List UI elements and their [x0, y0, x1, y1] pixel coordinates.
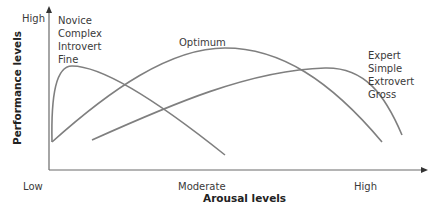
novice-label-line: Complex: [58, 27, 102, 40]
y-axis-title: Performance levels: [11, 35, 23, 145]
curve-novice: [52, 66, 225, 155]
x-axis-title: Arousal levels: [203, 192, 286, 204]
x-axis-arrow-icon: [421, 167, 428, 173]
novice-label-line: Introvert: [58, 40, 102, 53]
novice-label-line: Novice: [58, 14, 102, 27]
expert-label: Expert Simple Extrovert Gross: [368, 49, 414, 101]
x-tick-high: High: [354, 180, 377, 193]
curve-expert: [92, 68, 402, 140]
y-axis-arrow-icon: [46, 6, 52, 13]
novice-label: Novice Complex Introvert Fine: [58, 14, 102, 66]
expert-label-line: Gross: [368, 88, 414, 101]
expert-label-line: Expert: [368, 49, 414, 62]
novice-label-line: Fine: [58, 53, 102, 66]
expert-label-line: Simple: [368, 62, 414, 75]
x-tick-low: Low: [23, 180, 43, 193]
optimum-label: Optimum: [179, 36, 226, 49]
y-tick-high: High: [22, 12, 45, 25]
expert-label-line: Extrovert: [368, 75, 414, 88]
